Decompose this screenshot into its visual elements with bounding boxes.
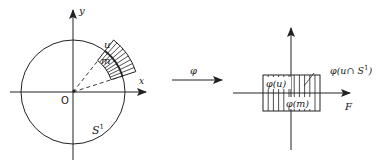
left-figure: y x O S1 u m: [10, 5, 146, 160]
x-axis-label: x: [139, 76, 144, 86]
y-axis-label: y: [78, 5, 85, 16]
origin-label: O: [61, 95, 69, 106]
neighborhood-m-label: m: [101, 55, 110, 66]
image-intersection-label: φ(u∩ S1): [330, 64, 372, 76]
f-axis-label: F: [344, 101, 353, 112]
map-label: φ: [190, 65, 197, 76]
image-u-label: φ(u): [266, 78, 286, 89]
image-m-label: φ(m): [286, 98, 309, 109]
diagram-canvas: y x O S1 u m φ φ(u) φ(m) φ(u∩ S1) F: [0, 0, 380, 165]
origin-point: [72, 89, 75, 92]
map-phi: φ: [172, 65, 222, 80]
right-figure: φ(u) φ(m) φ(u∩ S1) F: [233, 28, 372, 150]
neighborhood-u-label: u: [104, 39, 110, 50]
